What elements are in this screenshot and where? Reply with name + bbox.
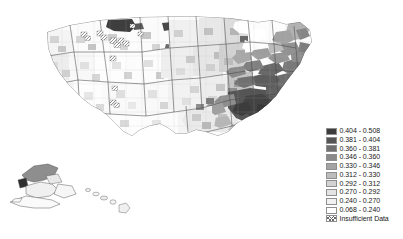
legend-label-8: 0.240 - 0.270 [340,197,381,206]
legend-swatch-5 [326,172,337,179]
legend-item-8: 0.240 - 0.270 [326,197,402,206]
choropleth-figure: 0.404 - 0.508 0.381 - 0.404 0.360 - 0.38… [0,0,403,239]
legend-label-7: 0.270 - 0.292 [340,188,381,197]
legend-item-5: 0.312 - 0.330 [326,171,402,180]
legend-label-3: 0.346 - 0.360 [340,153,381,162]
legend-swatch-6 [326,180,337,187]
legend-label-1: 0.381 - 0.404 [340,136,381,145]
legend-item-6: 0.292 - 0.312 [326,180,402,189]
legend-item-1: 0.381 - 0.404 [326,136,402,145]
legend-item-0: 0.404 - 0.508 [326,127,402,136]
legend-label-2: 0.360 - 0.381 [340,145,381,154]
map-legend: 0.404 - 0.508 0.381 - 0.404 0.360 - 0.38… [326,127,402,227]
legend-swatch-9 [326,207,337,214]
legend-swatch-2 [326,145,337,152]
legend-item-4: 0.330 - 0.346 [326,162,402,171]
legend-swatch-3 [326,154,337,161]
legend-label-6: 0.292 - 0.312 [340,180,381,189]
legend-label-insufficient-data: Insufficient Data [340,215,389,224]
map-svg [0,0,322,239]
legend-item-insufficient-data: Insufficient Data [326,215,402,224]
legend-item-9: 0.068 - 0.240 [326,206,402,215]
hawaii-inset [85,189,130,214]
legend-swatch-8 [326,198,337,205]
legend-swatch-0 [326,128,337,135]
legend-swatch-1 [326,137,337,144]
us-county-choropleth-map [0,0,322,239]
legend-swatch-7 [326,189,337,196]
legend-item-3: 0.346 - 0.360 [326,153,402,162]
legend-label-5: 0.312 - 0.330 [340,171,381,180]
legend-label-9: 0.068 - 0.240 [340,206,381,215]
legend-swatch-insufficient-data [326,215,337,222]
legend-label-0: 0.404 - 0.508 [340,127,381,136]
legend-swatch-4 [326,163,337,170]
alaska-inset [10,164,76,208]
legend-item-7: 0.270 - 0.292 [326,188,402,197]
legend-item-2: 0.360 - 0.381 [326,145,402,154]
legend-label-4: 0.330 - 0.346 [340,162,381,171]
lower-48-counties [40,10,322,150]
